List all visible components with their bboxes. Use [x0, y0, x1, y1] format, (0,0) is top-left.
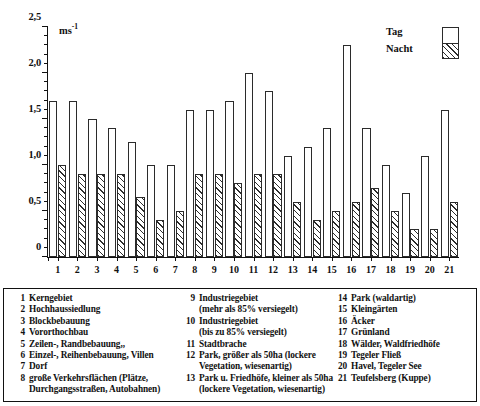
- key-item-number: 3: [12, 316, 25, 327]
- bar-day: [343, 45, 351, 257]
- key-item-number: 5: [12, 339, 25, 350]
- x-axis-tick-label: 9: [212, 264, 217, 275]
- key-item: 21Teufelsberg (Kuppe): [334, 373, 480, 384]
- key-item-label: Park u. Friedhöfe, kleiner als 50ha: [199, 373, 337, 384]
- bar-day: [362, 128, 370, 257]
- key-item-number: 2: [12, 304, 25, 315]
- x-axis-tick: [371, 257, 372, 261]
- y-axis-minor-tick: [44, 182, 48, 183]
- bar-day: [167, 165, 175, 257]
- y-axis-minor-tick: [44, 192, 48, 193]
- bar-night: [391, 211, 399, 257]
- x-axis-tick: [273, 257, 274, 261]
- bar-night: [293, 202, 301, 257]
- bar-night: [195, 174, 203, 257]
- y-axis-major-tick: [42, 118, 48, 119]
- x-axis-tick: [391, 257, 392, 261]
- key-item-number: 20: [334, 361, 347, 372]
- x-axis-tick-label: 1: [55, 264, 60, 275]
- x-axis-tick-label: 7: [173, 264, 178, 275]
- bar-day: [186, 110, 194, 257]
- key-item-number: 10: [182, 316, 195, 327]
- key-item-label-continued: (bis zu 85% versiegelt): [182, 327, 337, 338]
- key-item: 2Hochhaussiedlung: [12, 304, 184, 315]
- bar-night: [352, 202, 360, 257]
- x-axis-tick: [97, 257, 98, 261]
- key-column-2: 9Industriegebiet(mehr als 85% versiegelt…: [182, 293, 337, 396]
- y-axis-minor-tick: [44, 247, 48, 248]
- bar-night: [78, 174, 86, 257]
- bar-day: [69, 101, 77, 257]
- x-axis-tick: [117, 257, 118, 261]
- key-item: 4Vororthochbau: [12, 327, 184, 338]
- key-item: 13Park u. Friedhöfe, kleiner als 50ha: [182, 373, 337, 384]
- key-item: 5Zeilen-, Randbebauung,,: [12, 339, 184, 350]
- bar-night: [176, 211, 184, 257]
- key-item-number: 17: [334, 327, 347, 338]
- key-column-1: 1Kerngebiet2Hochhaussiedlung3Blockbebauu…: [12, 293, 184, 396]
- bar-day: [323, 128, 331, 257]
- y-axis-minor-tick: [44, 201, 48, 202]
- bar-night: [313, 220, 321, 257]
- x-axis-tick: [48, 257, 49, 261]
- key-item: 3Blockbebauung: [12, 316, 184, 327]
- x-axis-tick-label: 11: [249, 264, 258, 275]
- x-axis-tick-label: 18: [386, 264, 396, 275]
- bar-night: [97, 174, 105, 257]
- y-axis-minor-tick: [44, 136, 48, 137]
- key-item-number: 4: [12, 327, 25, 338]
- legend-label-tag: Tag: [386, 26, 403, 37]
- bar-day: [284, 156, 292, 257]
- key-item: 19Tegeler Fließ: [334, 350, 480, 361]
- x-axis-tick: [58, 257, 59, 261]
- bar-night: [273, 174, 281, 257]
- bar-night: [254, 174, 262, 257]
- key-item-label: Dorf: [29, 361, 184, 372]
- key-item-label: Einzel-, Reihenbebauung, Villen: [29, 350, 184, 361]
- bar-night: [430, 229, 438, 257]
- x-axis-tick: [195, 257, 196, 261]
- y-axis-minor-tick: [44, 228, 48, 229]
- key-item: 1Kerngebiet: [12, 293, 184, 304]
- x-axis-tick-label: 4: [114, 264, 119, 275]
- x-axis-tick: [312, 257, 313, 261]
- legend-swatch-nacht: [442, 43, 459, 59]
- bar-day: [49, 101, 57, 257]
- key-item-label: Kerngebiet: [29, 293, 184, 304]
- y-axis-tick-label: 2,5: [28, 11, 41, 22]
- key-item-label-continued: Durchgangsstraßen, Autobahnen): [12, 384, 184, 395]
- x-axis-tick: [254, 257, 255, 261]
- key-item-label: große Verkehrsflächen (Plätze,: [29, 373, 184, 384]
- bar-night: [215, 174, 223, 257]
- key-item-number: 21: [334, 373, 347, 384]
- x-axis-tick: [332, 257, 333, 261]
- bar-day: [421, 156, 429, 257]
- y-axis-major-tick: [42, 72, 48, 73]
- x-axis-tick-label: 19: [405, 264, 415, 275]
- key-item-number: 11: [182, 339, 195, 350]
- bar-night: [371, 188, 379, 257]
- key-item-number: 1: [12, 293, 25, 304]
- x-axis-tick: [430, 257, 431, 261]
- y-axis-minor-tick: [44, 81, 48, 82]
- legend-label-nacht: Nacht: [386, 43, 413, 54]
- bar-day: [304, 147, 312, 257]
- key-item-number: 15: [334, 304, 347, 315]
- key-item: 17Grünland: [334, 327, 480, 338]
- key-item-label-continued: (mehr als 85% versiegelt): [182, 304, 337, 315]
- key-item-label: Industriegebiet: [199, 316, 337, 327]
- key-item-number: 19: [334, 350, 347, 361]
- chart-page: ms-1 00,51,01,52,02,51234567891011121314…: [0, 0, 480, 406]
- x-axis-tick: [410, 257, 411, 261]
- bar-night: [58, 165, 66, 257]
- x-axis-tick: [136, 257, 137, 261]
- x-axis-tick-label: 6: [153, 264, 158, 275]
- key-item-number: 8: [12, 373, 25, 384]
- key-item: 6Einzel-, Reihenbebauung, Villen: [12, 350, 184, 361]
- y-axis-tick-label: 0: [36, 241, 41, 252]
- x-axis-tick: [449, 257, 450, 261]
- bar-night: [156, 220, 164, 257]
- bar-night: [234, 183, 242, 257]
- key-item-number: 18: [334, 339, 347, 350]
- y-axis-minor-tick: [44, 63, 48, 64]
